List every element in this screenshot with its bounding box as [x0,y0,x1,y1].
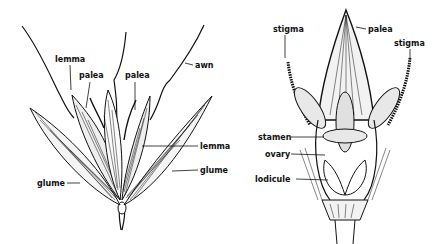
label-stamen: stamen [258,133,292,142]
label-lodicule: lodicule [255,175,291,184]
label-ovary: ovary [265,150,291,159]
label-stigma-left: stigma [273,25,304,34]
label-palea-left: palea [79,71,104,80]
spikelet-drawing [22,25,212,230]
label-lemma-top: lemma [55,55,85,64]
label-awn: awn [195,61,214,70]
floret-drawing [288,10,410,244]
label-glume-left: glume [37,179,66,188]
label-glume-right: glume [200,166,229,175]
label-palea-right: palea [125,71,150,80]
botanical-diagram: lemma palea palea awn lemma glume glume [0,0,444,244]
label-palea: palea [368,25,393,34]
label-lemma-right: lemma [200,142,230,151]
label-stigma-right: stigma [394,39,425,48]
